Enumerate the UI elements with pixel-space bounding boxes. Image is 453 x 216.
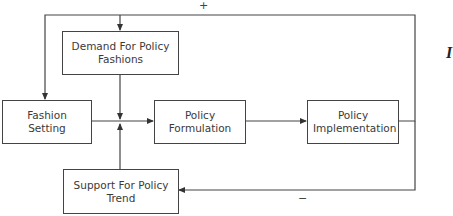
node-label: Demand For Policy Fashions (67, 40, 174, 66)
node-label: Support For Policy Trend (68, 179, 174, 205)
side-mark: I (446, 44, 452, 62)
node-demand-for-policy-fashions: Demand For Policy Fashions (62, 31, 179, 75)
positive-feedback-sign: + (199, 0, 208, 11)
node-label: Policy Formulation (165, 109, 235, 135)
node-label: Policy Implementation (313, 109, 393, 135)
negative-feedback-sign: − (298, 193, 307, 204)
node-policy-formulation: Policy Formulation (154, 100, 246, 144)
node-support-for-policy-trend: Support For Policy Trend (63, 169, 179, 214)
node-label: Fashion Setting (22, 109, 72, 135)
node-policy-implementation: Policy Implementation (307, 100, 399, 144)
node-fashion-setting: Fashion Setting (2, 100, 92, 144)
